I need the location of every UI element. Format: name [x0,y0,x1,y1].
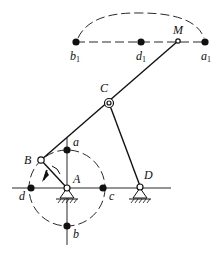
point-d [27,184,34,191]
hinge-D [137,184,143,190]
hinge-C [105,99,114,108]
linkage-diagram: M C B A D a b c d b1 d1 a1 [0,0,222,257]
label-d: d [19,189,26,203]
label-a: a [73,135,79,149]
rotation-arrow-icon [42,166,60,182]
label-C: C [100,81,109,95]
point-b1 [72,38,79,45]
label-A: A [72,172,81,186]
label-b1: b1 [70,49,80,64]
point-a [63,146,70,153]
label-c: c [109,189,115,203]
coupler-path-arc [78,13,204,38]
label-M: M [172,23,184,37]
point-c [99,184,106,191]
label-b1-sub: 1 [76,55,80,64]
point-d1 [137,38,144,45]
label-d1: d1 [136,49,146,64]
link-CD [109,103,140,186]
label-a1-sub: 1 [207,55,211,64]
hinge-A [64,185,70,191]
label-B: B [24,153,32,167]
label-d1-sub: 1 [142,55,146,64]
hinge-B [38,157,44,163]
point-b [63,222,70,229]
point-a1 [201,38,208,45]
label-a1: a1 [201,49,211,64]
label-b: b [73,227,79,241]
point-M [176,39,180,43]
label-D: D [143,168,153,182]
